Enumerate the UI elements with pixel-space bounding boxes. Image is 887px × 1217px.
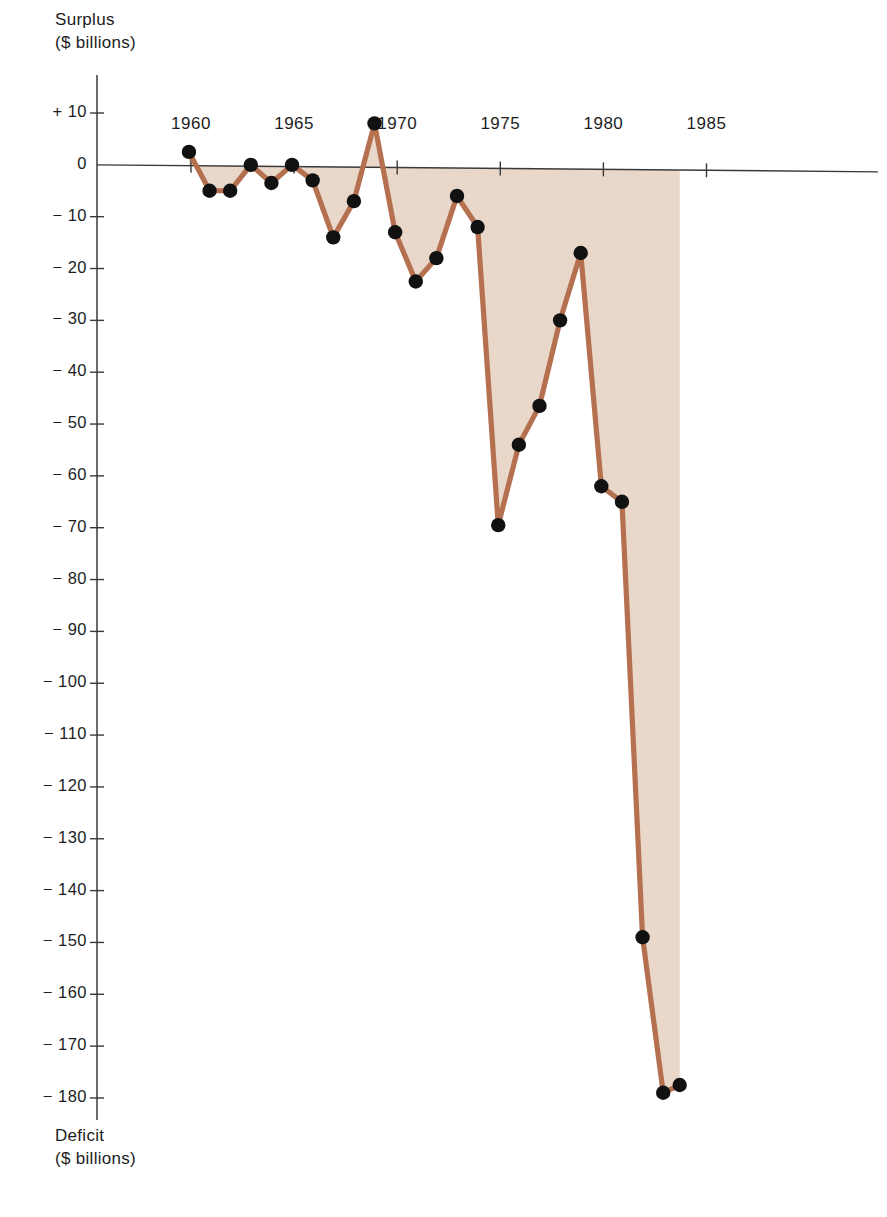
plot-area xyxy=(0,0,887,1217)
chart-root: Surplus ($ billions) Deficit ($ billions… xyxy=(0,0,887,1217)
deficit-fill-area xyxy=(189,123,680,1092)
